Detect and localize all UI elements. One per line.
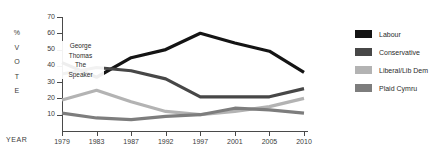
x-tick-label-2005: 2005 [262, 138, 278, 145]
annotation-line-1: Thomas [57, 51, 104, 61]
legend-label-1: Conservative [379, 49, 420, 56]
legend-swatch-2 [355, 66, 372, 74]
legend-swatch-1 [355, 48, 372, 56]
y-axis-title-char-1: V [8, 41, 26, 56]
legend-label-2: Liberal/Lib Dem [379, 67, 428, 74]
legend-swatch-0 [355, 30, 372, 38]
annotation-line-3: Speaker [57, 70, 104, 80]
x-tick-label-1987: 1987 [123, 138, 139, 145]
x-tick-label-2001: 2001 [227, 138, 243, 145]
x-tick-label-1983: 1983 [89, 138, 105, 145]
legend-item-labour: Labour [355, 26, 435, 42]
annotation-line-0: George [57, 41, 104, 51]
legend-item-liberal-lib-dem: Liberal/Lib Dem [355, 62, 435, 78]
x-tick-label-1997: 1997 [192, 138, 208, 145]
annotation-line-2: The [57, 60, 104, 70]
y-axis-title: %VOTE [8, 26, 26, 99]
y-axis-title-char-2: O [8, 55, 26, 70]
y-axis-title-char-3: T [8, 70, 26, 85]
x-tick-label-1992: 1992 [158, 138, 174, 145]
x-tick-label-2010: 2010 [296, 138, 312, 145]
x-axis-title: YEAR [6, 136, 27, 143]
legend-item-conservative: Conservative [355, 44, 435, 60]
legend-item-plaid-cymru: Plaid Cymru [355, 80, 435, 96]
legend: LabourConservativeLiberal/Lib DemPlaid C… [355, 26, 435, 98]
y-axis-title-char-0: % [8, 26, 26, 41]
annotation-george-thomas: GeorgeThomasTheSpeaker [57, 41, 104, 79]
y-axis-title-char-4: E [8, 84, 26, 99]
legend-label-3: Plaid Cymru [379, 85, 417, 92]
legend-swatch-3 [355, 84, 372, 92]
chart-page: %VOTE YEAR 70605040302010 19791983198719… [0, 0, 437, 155]
legend-label-0: Labour [379, 31, 401, 38]
x-tick-label-1979: 1979 [54, 138, 70, 145]
